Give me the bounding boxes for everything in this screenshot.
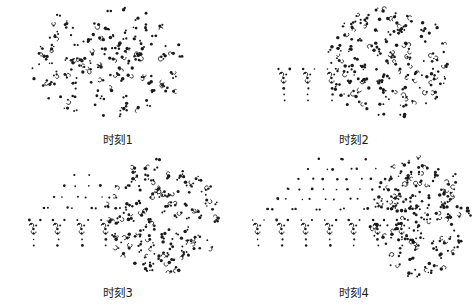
panel-snapshot-3: 时刻3 (0, 153, 236, 306)
scatter-canvas-3 (0, 153, 236, 281)
scatter-canvas-1 (0, 0, 236, 128)
scatter-plot-4 (236, 153, 472, 281)
panel-snapshot-4: 时刻4 (236, 153, 472, 306)
scatter-canvas-2 (236, 0, 472, 128)
panel-caption-1: 时刻1 (0, 133, 236, 147)
scatter-canvas-4 (236, 153, 472, 281)
panel-caption-4: 时刻4 (236, 286, 472, 300)
panel-caption-3: 时刻3 (0, 286, 236, 300)
scatter-plot-1 (0, 0, 236, 128)
panel-caption-2: 时刻2 (236, 133, 472, 147)
scatter-plot-2 (236, 0, 472, 128)
figure-root: 时刻1 时刻2 时刻3 时刻4 (0, 0, 472, 306)
panel-snapshot-2: 时刻2 (236, 0, 472, 153)
scatter-plot-3 (0, 153, 236, 281)
panel-snapshot-1: 时刻1 (0, 0, 236, 153)
